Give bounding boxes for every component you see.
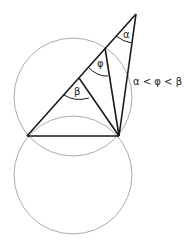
- upper-circle: [14, 38, 132, 156]
- line-phi: [105, 48, 119, 136]
- geometry-diagram: α φ β α < φ < β: [0, 0, 184, 244]
- label-beta: β: [74, 86, 80, 97]
- line-beta: [79, 78, 119, 136]
- lower-circle: [14, 116, 132, 234]
- label-relation: α < φ < β: [133, 76, 182, 87]
- label-phi: φ: [97, 58, 104, 69]
- secant-line: [27, 14, 136, 136]
- label-alpha: α: [123, 29, 130, 40]
